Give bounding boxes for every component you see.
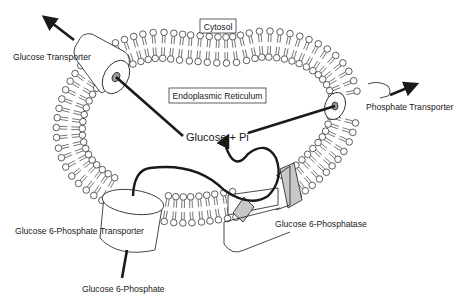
lipid-head <box>267 28 274 35</box>
lipid-head <box>80 118 87 125</box>
lipid-head <box>196 193 203 200</box>
er-label-box: Endoplasmic Reticulum <box>169 88 266 103</box>
cytosol-label-box: Cytosol <box>200 19 236 33</box>
lipid-head <box>256 28 263 35</box>
g6p-label: Glucose 6-Phosphate <box>82 284 165 294</box>
glucose-path-line <box>116 77 183 136</box>
lipid-head <box>273 54 280 61</box>
lipid-head <box>277 29 284 36</box>
lipid-head <box>289 58 296 65</box>
lipid-head <box>186 58 193 65</box>
lipid-head <box>145 56 152 63</box>
lipid-head <box>302 187 309 194</box>
glucose-transporter-label: Glucose Transporter <box>13 52 91 62</box>
lipid-head <box>203 192 210 199</box>
lipid-head <box>173 193 180 200</box>
pi-out-arrow <box>390 86 412 95</box>
lipid-head <box>346 68 353 75</box>
lipid-head <box>324 46 331 53</box>
lipid-head <box>198 219 205 226</box>
lipid-head <box>195 58 202 65</box>
lipid-head <box>161 29 168 36</box>
lipid-head <box>150 29 157 36</box>
glucose-6-phosphatase-enzyme <box>224 163 302 252</box>
lipid-head <box>246 30 253 37</box>
lipid-head <box>111 174 118 181</box>
g6p-transporter-label: Glucose 6-Phosphate Transporter <box>15 226 144 236</box>
lipid-head <box>332 52 339 59</box>
lipid-head <box>281 56 288 63</box>
lipid-head <box>187 32 194 39</box>
lipid-head <box>299 157 306 164</box>
lipid-head <box>206 33 213 40</box>
lipid-head <box>55 145 62 152</box>
lipid-head <box>89 91 96 98</box>
lipid-head <box>340 60 347 67</box>
lipid-head <box>350 77 357 84</box>
lipid-head <box>67 78 74 85</box>
lipid-head <box>99 166 106 173</box>
lipid-head <box>105 170 112 177</box>
lipid-head <box>352 120 359 127</box>
lipid-head <box>86 98 93 105</box>
lipid-head <box>335 156 342 163</box>
lipid-head <box>315 139 322 146</box>
lipid-head <box>323 169 330 176</box>
lipid-head <box>346 139 353 146</box>
lipid-head <box>130 61 137 68</box>
lipid-head <box>341 148 348 155</box>
phosphate-transporter-label: Phosphate Transporter <box>366 102 454 112</box>
lipid-head <box>82 145 89 152</box>
lipid-head <box>130 33 137 40</box>
lipid-head <box>91 192 98 199</box>
lipid-head <box>170 219 177 226</box>
lipid-head <box>237 32 244 39</box>
lipid-head <box>59 96 66 103</box>
lipid-head <box>207 218 214 225</box>
lipid-head <box>152 55 159 62</box>
lipid-head <box>223 60 230 67</box>
lipid-head <box>159 55 166 62</box>
lipid-head <box>62 87 69 94</box>
lipid-head <box>266 54 273 61</box>
lipid-head <box>75 180 82 187</box>
lipid-head <box>306 36 313 43</box>
lipid-head <box>68 173 75 180</box>
lipid-head <box>304 151 311 158</box>
er-membrane-diagram: Cytosol Endoplasmic Reticulum Glucose Tr… <box>0 0 470 304</box>
svg-text:Endoplasmic Reticulum: Endoplasmic Reticulum <box>173 91 263 101</box>
lipid-head <box>83 187 90 194</box>
lipid-head <box>215 34 222 41</box>
lipid-head <box>319 134 326 141</box>
lipid-head <box>167 56 174 63</box>
lipid-head <box>329 163 336 170</box>
pi-path-line <box>248 106 335 133</box>
svg-text:Cytosol: Cytosol <box>204 22 233 32</box>
lipid-head <box>85 151 92 158</box>
lipid-head <box>53 134 60 141</box>
lipid-head <box>58 154 65 161</box>
lipid-head <box>296 33 303 40</box>
lipid-head <box>211 191 218 198</box>
glucose-pi-label: Glucose + Pi <box>186 131 249 143</box>
lipid-head <box>79 132 86 139</box>
lipid-head <box>215 217 222 224</box>
lipid-head <box>176 57 183 64</box>
lipid-head <box>62 164 69 171</box>
lipid-head <box>179 31 186 38</box>
lipid-head <box>315 40 322 47</box>
lipid-head <box>56 105 63 112</box>
lipid-head <box>354 88 361 95</box>
lipid-head <box>229 33 236 40</box>
g6p-in-line <box>122 250 127 278</box>
lipid-head <box>53 124 60 131</box>
lipid-head <box>165 192 172 199</box>
lipid-head <box>310 145 317 152</box>
glucose-out-arrow <box>48 20 74 40</box>
lipid-head <box>180 220 187 227</box>
lipid-head <box>161 218 168 225</box>
lipid-head <box>287 30 294 37</box>
lipid-head <box>204 59 211 66</box>
lipid-head <box>187 194 194 201</box>
g6pase-label: Glucose 6-Phosphatase <box>275 219 367 229</box>
